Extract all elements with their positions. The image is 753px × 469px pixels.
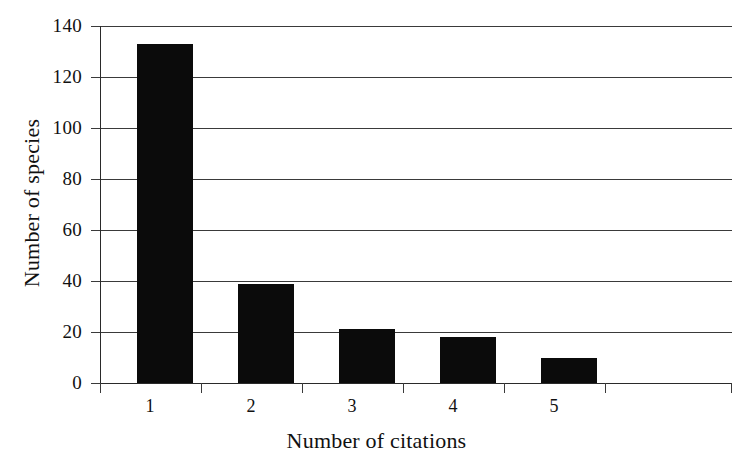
x-tick-mark-6 <box>731 383 732 393</box>
bar-4 <box>440 337 496 383</box>
x-tick-label-4: 4 <box>423 396 483 416</box>
y-tick-label-20: 20 <box>40 322 82 341</box>
x-tick-mark-2 <box>302 383 303 393</box>
y-tick-label-140: 140 <box>40 16 82 35</box>
y-tick-mark-0 <box>91 383 100 384</box>
x-tick-label-3: 3 <box>322 396 382 416</box>
y-tick-label-120: 120 <box>40 67 82 86</box>
y-tick-label-40: 40 <box>40 271 82 290</box>
y-tick-mark-20 <box>91 332 100 333</box>
bar-3 <box>339 329 395 383</box>
y-tick-mark-80 <box>91 179 100 180</box>
gridline-100 <box>100 128 732 129</box>
gridline-40 <box>100 281 732 282</box>
y-tick-label-0: 0 <box>40 373 82 392</box>
y-tick-label-80: 80 <box>40 169 82 188</box>
x-tick-mark-4 <box>504 383 505 393</box>
y-axis-line <box>100 26 101 383</box>
plot-area <box>100 26 732 383</box>
y-tick-mark-60 <box>91 230 100 231</box>
y-tick-label-60: 60 <box>40 220 82 239</box>
y-tick-mark-40 <box>91 281 100 282</box>
gridline-60 <box>100 230 732 231</box>
y-axis-title: Number of species <box>19 53 45 353</box>
x-tick-mark-0 <box>100 383 101 393</box>
x-axis-title: Number of citations <box>0 428 753 454</box>
x-tick-mark-5 <box>605 383 606 393</box>
x-tick-label-1: 1 <box>120 396 180 416</box>
gridline-80 <box>100 179 732 180</box>
gridline-20 <box>100 332 732 333</box>
x-tick-mark-1 <box>201 383 202 393</box>
x-tick-mark-3 <box>403 383 404 393</box>
x-tick-label-2: 2 <box>221 396 281 416</box>
y-tick-mark-120 <box>91 77 100 78</box>
bar-2 <box>238 284 294 383</box>
x-axis-line <box>100 383 732 384</box>
bar-chart-figure: 140 120 100 80 60 40 20 0 1 2 3 4 5 Numb… <box>0 0 753 469</box>
bar-5 <box>541 358 597 384</box>
x-tick-label-5: 5 <box>524 396 584 416</box>
y-tick-mark-140 <box>91 26 100 27</box>
bar-1 <box>137 44 193 383</box>
y-tick-mark-100 <box>91 128 100 129</box>
y-tick-label-100: 100 <box>40 118 82 137</box>
gridline-120 <box>100 77 732 78</box>
gridline-140 <box>100 26 732 27</box>
